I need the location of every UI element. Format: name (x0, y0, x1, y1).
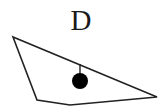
diagram-figure (0, 0, 162, 109)
quadrilateral-shape (13, 37, 157, 105)
pendulum-ball (72, 73, 88, 89)
diagram-canvas: D (0, 0, 162, 109)
